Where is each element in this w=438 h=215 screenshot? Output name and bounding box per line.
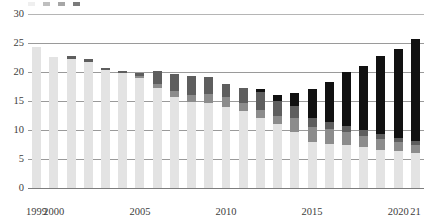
bar-segment bbox=[49, 57, 58, 188]
bar-segment bbox=[376, 56, 385, 134]
bar bbox=[67, 56, 76, 188]
bar bbox=[325, 82, 334, 188]
bar-segment bbox=[325, 129, 334, 144]
bar-segment bbox=[359, 136, 368, 148]
bar-segment bbox=[170, 74, 179, 90]
bar bbox=[411, 39, 420, 188]
bar-segment bbox=[359, 66, 368, 130]
bar-segment bbox=[101, 70, 110, 188]
bar-segment bbox=[170, 97, 179, 188]
legend-item bbox=[28, 0, 37, 6]
legend-item bbox=[43, 0, 52, 6]
bar bbox=[359, 66, 368, 188]
bar bbox=[49, 57, 58, 188]
y-tick-label: 20 bbox=[0, 67, 24, 77]
chart-legend-clipped bbox=[28, 0, 243, 6]
bar-segment bbox=[153, 88, 162, 188]
bar-segment bbox=[290, 132, 299, 188]
bar-segment bbox=[239, 88, 248, 103]
bar-segment bbox=[376, 139, 385, 149]
bar bbox=[135, 73, 144, 188]
bar bbox=[32, 47, 41, 188]
bar-segment bbox=[325, 144, 334, 188]
legend-swatch-icon bbox=[58, 2, 65, 6]
bar-segment bbox=[84, 62, 93, 188]
plot-area: 051015202530 19992000200520102015202021 bbox=[28, 14, 424, 188]
bar bbox=[256, 89, 265, 188]
stacked-bar-chart: 051015202530 19992000200520102015202021 bbox=[0, 0, 438, 215]
bar-segment bbox=[394, 49, 403, 138]
bar-segment bbox=[256, 92, 265, 109]
legend-item bbox=[73, 0, 82, 6]
legend-item bbox=[58, 0, 67, 6]
bar bbox=[376, 56, 385, 188]
bar bbox=[118, 71, 127, 188]
bar-segment bbox=[153, 71, 162, 83]
bar-segment bbox=[222, 97, 231, 107]
bar-segment bbox=[135, 78, 144, 188]
bar bbox=[84, 59, 93, 188]
bar bbox=[204, 77, 213, 188]
y-tick-label: 25 bbox=[0, 38, 24, 48]
bar-segment bbox=[204, 77, 213, 94]
bar-segment bbox=[359, 147, 368, 188]
legend-swatch-icon bbox=[73, 2, 80, 6]
bar-segment bbox=[394, 151, 403, 188]
x-tick-label: 2010 bbox=[206, 206, 246, 215]
bar-segment bbox=[204, 94, 213, 103]
bar-segment bbox=[325, 122, 334, 130]
bar-segment bbox=[273, 101, 282, 116]
bar-segment bbox=[290, 118, 299, 131]
x-axis-line bbox=[28, 188, 424, 189]
y-tick-label: 10 bbox=[0, 125, 24, 135]
bar-segment bbox=[411, 145, 420, 153]
bar-segment bbox=[290, 93, 299, 106]
bar-segment bbox=[290, 106, 299, 118]
bar bbox=[239, 88, 248, 188]
bar-segment bbox=[256, 118, 265, 188]
bar-segment bbox=[187, 95, 196, 103]
legend-swatch-icon bbox=[43, 2, 50, 6]
bar bbox=[290, 93, 299, 188]
x-tick-label: 2015 bbox=[292, 206, 332, 215]
bar-segment bbox=[376, 150, 385, 188]
bar-segment bbox=[239, 111, 248, 188]
bar bbox=[222, 84, 231, 188]
x-tick-label: 2000 bbox=[34, 206, 74, 215]
bar bbox=[187, 76, 196, 188]
bar-segment bbox=[273, 124, 282, 188]
y-tick-label: 5 bbox=[0, 154, 24, 164]
bar-segment bbox=[308, 89, 317, 118]
bar-segment bbox=[67, 59, 76, 188]
bar-segment bbox=[204, 103, 213, 188]
bar-segment bbox=[411, 153, 420, 188]
bar-segment bbox=[222, 84, 231, 97]
bar bbox=[170, 74, 179, 188]
bar bbox=[101, 68, 110, 188]
bar-segment bbox=[273, 116, 282, 124]
x-tick-label: 2005 bbox=[120, 206, 160, 215]
bar-segment bbox=[342, 132, 351, 145]
gridline bbox=[28, 14, 424, 15]
bar bbox=[308, 89, 317, 188]
bar bbox=[153, 71, 162, 188]
bar-segment bbox=[187, 102, 196, 188]
bar-segment bbox=[342, 145, 351, 188]
bar-segment bbox=[308, 118, 317, 127]
bar-segment bbox=[342, 72, 351, 126]
bar-segment bbox=[222, 107, 231, 188]
bar-segment bbox=[256, 110, 265, 119]
bar-segment bbox=[308, 127, 317, 142]
gridline bbox=[28, 43, 424, 44]
y-tick-label: 30 bbox=[0, 9, 24, 19]
bar-segment bbox=[187, 76, 196, 95]
bar bbox=[342, 72, 351, 188]
legend-swatch-icon bbox=[28, 2, 35, 6]
bar-segment bbox=[308, 142, 317, 188]
bar-segment bbox=[411, 39, 420, 141]
x-tick-label: 21 bbox=[395, 206, 435, 215]
bar bbox=[273, 95, 282, 188]
bar bbox=[394, 49, 403, 188]
bar-segment bbox=[394, 142, 403, 151]
bar-segment bbox=[239, 103, 248, 112]
